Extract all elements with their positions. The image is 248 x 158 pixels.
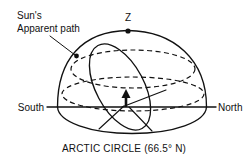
observer-sight-line (122, 90, 166, 107)
celestial-dome-arc (58, 31, 207, 108)
north-label: North (218, 102, 242, 113)
observer-arrow-head (122, 89, 131, 98)
arctic-circle-diagram: Z Sun's Apparent path South North ARCTIC… (0, 0, 248, 158)
sun-path-label-line1: Sun's (17, 10, 42, 21)
south-label: South (18, 102, 44, 113)
sun-path-label-line2: Apparent path (17, 23, 80, 34)
celestial-sphere-illustration: Z Sun's Apparent path South North ARCTIC… (0, 0, 248, 158)
caption-leader-line (99, 106, 124, 129)
sun-path-leader-line (50, 36, 75, 55)
zenith-point-dot (125, 28, 130, 33)
zenith-label: Z (125, 12, 131, 23)
lower-dashed-circle (62, 77, 204, 111)
figure-caption: ARCTIC CIRCLE (66.5° N) (62, 143, 186, 154)
